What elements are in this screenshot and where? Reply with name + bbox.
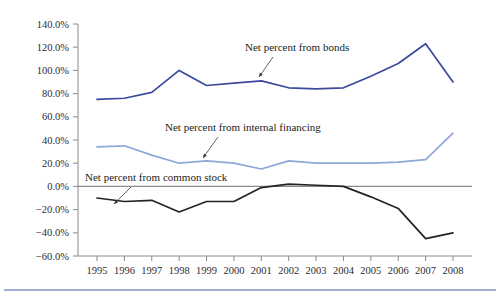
y-tick-label: 140.0% bbox=[37, 19, 70, 30]
y-tick-label: 0.0% bbox=[47, 181, 69, 192]
x-tick-label: 1996 bbox=[114, 265, 135, 276]
chart-figure: 140.0%120.0%100.0%80.0%60.0%40.0%20.0%0.… bbox=[0, 0, 500, 300]
x-tick-label: 1998 bbox=[169, 265, 190, 276]
y-tick-label: 100.0% bbox=[37, 65, 70, 76]
y-tick-label: −20.0% bbox=[36, 204, 69, 215]
x-tick-label: 1999 bbox=[196, 265, 217, 276]
annotation-label: Net percent from bonds bbox=[245, 41, 349, 53]
x-tick-label: 2004 bbox=[333, 265, 355, 276]
y-tick-label: 20.0% bbox=[42, 158, 69, 169]
y-tick-label: −60.0% bbox=[36, 251, 69, 262]
y-tick-label: 80.0% bbox=[42, 88, 69, 99]
x-tick-label: 2000 bbox=[223, 265, 244, 276]
x-tick-label: 1997 bbox=[141, 265, 162, 276]
bottom-divider-container bbox=[0, 284, 500, 298]
x-tick-label: 1995 bbox=[87, 265, 108, 276]
x-tick-label: 2007 bbox=[415, 265, 436, 276]
x-tick-label: 2003 bbox=[306, 265, 327, 276]
annotation-label: Net percent from internal financing bbox=[165, 121, 321, 133]
y-tick-label: −40.0% bbox=[36, 227, 69, 238]
x-tick-label: 2005 bbox=[360, 265, 381, 276]
x-tick-label: 2006 bbox=[388, 265, 409, 276]
y-tick-label: 60.0% bbox=[42, 111, 69, 122]
annotation-label: Net percent from common stock bbox=[85, 171, 228, 183]
x-tick-label: 2008 bbox=[443, 265, 464, 276]
financing-sources-line-chart: 140.0%120.0%100.0%80.0%60.0%40.0%20.0%0.… bbox=[0, 0, 500, 300]
x-tick-label: 2002 bbox=[278, 265, 299, 276]
x-tick-label: 2001 bbox=[251, 265, 272, 276]
y-tick-label: 40.0% bbox=[42, 135, 69, 146]
y-tick-label: 120.0% bbox=[37, 42, 70, 53]
